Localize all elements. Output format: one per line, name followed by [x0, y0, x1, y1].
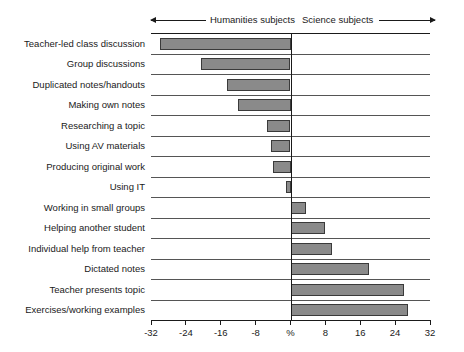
category-label: Using IT: [110, 183, 145, 193]
bar: [291, 222, 326, 234]
x-tick-label: 16: [355, 328, 366, 338]
zero-axis-line: [291, 34, 292, 320]
bar: [267, 120, 291, 132]
category-label: Group discussions: [67, 60, 145, 70]
category-label: Duplicated notes/handouts: [33, 80, 146, 90]
chart-header-band: Humanities subjects Science subjects: [151, 10, 430, 30]
x-tick: [360, 320, 361, 325]
arrow-right-head-icon: [430, 17, 436, 23]
x-tick: [220, 320, 221, 325]
category-label: Producing original work: [46, 162, 145, 172]
x-tick: [185, 320, 186, 325]
category-label: Teacher-led class discussion: [24, 39, 145, 49]
bar: [273, 161, 290, 173]
arrow-left-head-icon: [150, 17, 156, 23]
x-tick-label: %: [286, 328, 294, 338]
science-header: Science subjects: [298, 10, 430, 30]
category-label: Researching a topic: [61, 121, 145, 131]
bar: [291, 263, 369, 275]
x-tick-label: 24: [390, 328, 401, 338]
bar: [201, 58, 290, 70]
x-tick-label: 8: [323, 328, 328, 338]
category-label: Dictated notes: [84, 265, 145, 275]
x-tick: [255, 320, 256, 325]
arrow-right-icon: [379, 20, 435, 21]
x-axis: -32-24-16-8%8162432: [151, 320, 430, 321]
plot-area: Teacher-led class discussionGroup discus…: [151, 33, 430, 320]
bar: [238, 99, 290, 111]
x-tick-label: -32: [144, 328, 158, 338]
category-label: Individual help from teacher: [28, 244, 145, 254]
bar: [160, 38, 291, 50]
bar: [291, 304, 409, 316]
bar: [271, 140, 291, 152]
science-label: Science subjects: [302, 15, 373, 25]
x-tick: [395, 320, 396, 325]
arrow-left-icon: [151, 20, 206, 21]
x-tick-label: -24: [179, 328, 193, 338]
category-label: Working in small groups: [44, 203, 145, 213]
x-tick: [290, 320, 291, 325]
x-tick: [151, 320, 152, 325]
category-label: Making own notes: [68, 101, 145, 111]
x-tick: [325, 320, 326, 325]
bar: [291, 284, 404, 296]
x-tick-label: -16: [214, 328, 228, 338]
category-label: Exercises/working examples: [25, 306, 145, 316]
x-tick-label: -8: [251, 328, 259, 338]
x-tick: [430, 320, 431, 325]
humanities-header: Humanities subjects: [151, 10, 298, 30]
category-label: Teacher presents topic: [49, 285, 145, 295]
x-tick-label: 32: [425, 328, 436, 338]
bar: [291, 202, 306, 214]
humanities-label: Humanities subjects: [210, 15, 295, 25]
category-label: Using AV materials: [65, 142, 145, 152]
bar: [291, 243, 332, 255]
horizontal-bar-chart: Humanities subjects Science subjects Tea…: [0, 0, 464, 352]
category-label: Helping another student: [44, 224, 145, 234]
bar: [227, 79, 290, 91]
